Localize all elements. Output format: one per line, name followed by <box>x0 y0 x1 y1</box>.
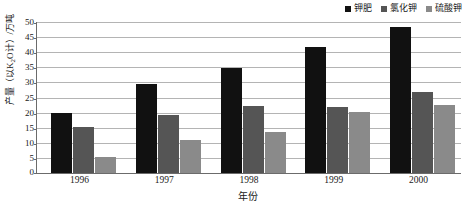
legend-item-2[interactable]: 硫酸钾 <box>426 4 462 13</box>
bar-硫酸钾-1999[interactable] <box>349 112 370 173</box>
legend-label-0: 钾肥 <box>354 4 372 13</box>
y-axis-tick-mark <box>34 173 37 174</box>
bar-氯化钾-1996[interactable] <box>73 127 94 173</box>
bar-硫酸钾-2000[interactable] <box>434 105 455 173</box>
x-axis-title: 年份 <box>36 188 460 203</box>
bar-钾肥-1999[interactable] <box>305 47 326 173</box>
y-axis-tick-label: 20 <box>8 108 34 118</box>
bar-group: 1996 <box>37 22 122 173</box>
bar-group: 1997 <box>122 22 207 173</box>
bar-钾肥-1997[interactable] <box>136 84 157 173</box>
x-axis-tick-label: 2000 <box>376 175 461 185</box>
y-axis-tick-label: 5 <box>8 153 34 163</box>
bar-硫酸钾-1996[interactable] <box>95 157 116 173</box>
legend-swatch-icon-0 <box>345 6 351 12</box>
x-axis-tick-label: 1996 <box>37 175 122 185</box>
x-axis-tick-label: 1999 <box>291 175 376 185</box>
y-axis-tick-label: 15 <box>8 123 34 133</box>
y-axis-tick-label: 0 <box>8 167 34 177</box>
legend-swatch-icon-1 <box>381 6 387 12</box>
y-axis-tick-label: 10 <box>8 138 34 148</box>
bar-氯化钾-2000[interactable] <box>412 92 433 173</box>
bar-氯化钾-1999[interactable] <box>327 107 348 173</box>
y-axis-tick-label: 45 <box>8 32 34 42</box>
bar-氯化钾-1997[interactable] <box>158 115 179 173</box>
bar-group: 1998 <box>207 22 292 173</box>
y-axis-tick-label: 30 <box>8 77 34 87</box>
y-axis-tick-label: 25 <box>8 93 34 103</box>
y-axis-tick-label: 35 <box>8 62 34 72</box>
bar-group: 2000 <box>376 22 461 173</box>
legend-label-1: 氯化钾 <box>390 4 417 13</box>
bar-钾肥-1996[interactable] <box>51 113 72 173</box>
y-axis-tick-label: 50 <box>8 17 34 27</box>
bar-硫酸钾-1997[interactable] <box>180 140 201 173</box>
x-axis-tick-label: 1997 <box>122 175 207 185</box>
legend-item-0[interactable]: 钾肥 <box>345 4 372 13</box>
legend-swatch-icon-2 <box>426 6 432 12</box>
chart-legend: 钾肥 氯化钾 硫酸钾 <box>345 2 462 15</box>
bar-硫酸钾-1998[interactable] <box>265 132 286 173</box>
bar-钾肥-1998[interactable] <box>221 68 242 173</box>
legend-item-1[interactable]: 氯化钾 <box>381 4 417 13</box>
bar-钾肥-2000[interactable] <box>390 27 411 173</box>
bar-group: 1999 <box>291 22 376 173</box>
bar-chart: 钾肥 氯化钾 硫酸钾 产量（以K2O计）/万吨 5045403530252015… <box>0 0 465 206</box>
bar-氯化钾-1998[interactable] <box>243 106 264 173</box>
y-axis-tick-label: 40 <box>8 47 34 57</box>
bar-groups: 19961997199819992000 <box>37 22 461 173</box>
plot-area: 50454035302520151050 1996199719981999200… <box>36 22 461 174</box>
x-axis-tick-label: 1998 <box>207 175 292 185</box>
legend-label-2: 硫酸钾 <box>435 4 462 13</box>
